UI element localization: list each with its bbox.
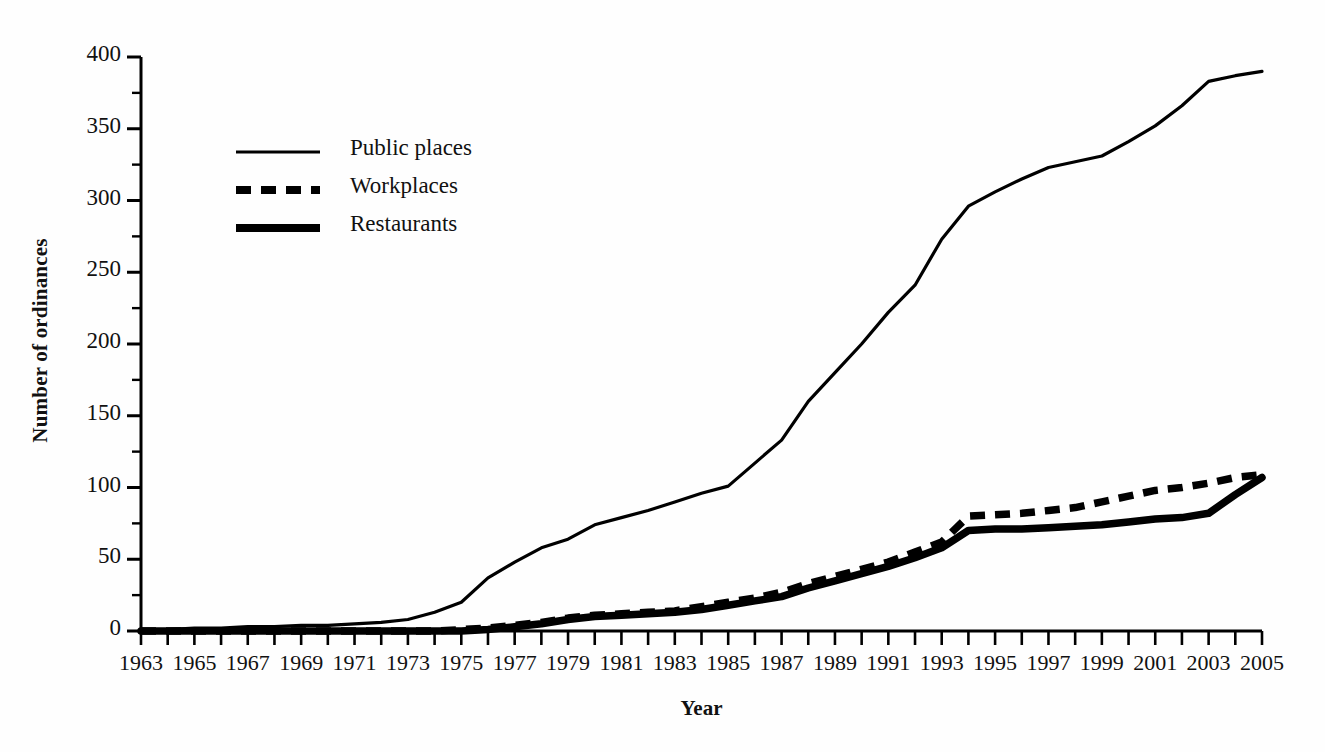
chart-figure: Number of ordinances Year 05010015020025… — [0, 0, 1325, 752]
plot-area — [0, 0, 1325, 752]
series-line-public-places — [141, 71, 1262, 629]
